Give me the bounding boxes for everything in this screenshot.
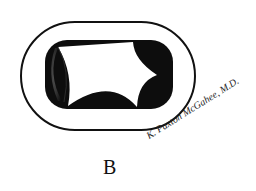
figure-label: B: [103, 156, 116, 179]
